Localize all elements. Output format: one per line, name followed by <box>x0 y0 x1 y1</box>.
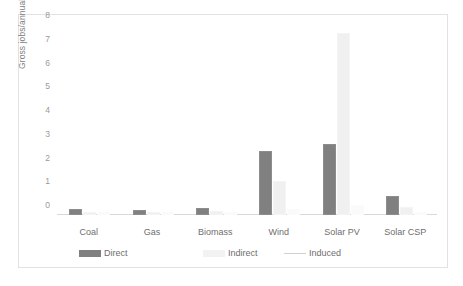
chart-figure: Gross jobs/annual GWh 012345678 CoalGasB… <box>18 14 448 268</box>
bar-indirect-coal[interactable] <box>83 212 96 215</box>
bar-direct-wind[interactable] <box>259 151 272 215</box>
y-tick-4: 4 <box>45 105 50 115</box>
bar-induced-gas[interactable] <box>161 212 174 215</box>
bar-induced-solar-csp[interactable] <box>414 212 427 215</box>
y-tick-8: 8 <box>45 10 50 20</box>
y-tick-6: 6 <box>45 58 50 68</box>
bar-direct-gas[interactable] <box>133 210 146 215</box>
y-tick-7: 7 <box>45 34 50 44</box>
bar-direct-solar-csp[interactable] <box>386 196 399 215</box>
bar-group-gas <box>133 25 172 215</box>
bar-indirect-gas[interactable] <box>147 212 160 215</box>
x-label-solar-pv: Solar PV <box>324 227 360 237</box>
y-tick-2: 2 <box>45 153 50 163</box>
legend-swatch-induced <box>284 250 306 257</box>
bar-group-solar-csp <box>386 25 425 215</box>
legend-swatch-direct <box>79 250 101 257</box>
legend-label-direct: Direct <box>104 248 128 258</box>
y-axis-label: Gross jobs/annual GWh <box>17 0 27 69</box>
legend-item-direct[interactable]: Direct <box>79 248 128 258</box>
x-label-coal: Coal <box>79 227 98 237</box>
y-tick-1: 1 <box>45 176 50 186</box>
bar-direct-coal[interactable] <box>69 209 82 215</box>
chart-legend: Direct Indirect Induced <box>79 248 399 262</box>
legend-label-indirect: Indirect <box>228 248 258 258</box>
legend-item-induced[interactable]: Induced <box>284 248 341 258</box>
legend-swatch-indirect <box>203 250 225 257</box>
y-tick-0: 0 <box>45 200 50 210</box>
bar-indirect-biomass[interactable] <box>210 211 223 215</box>
bar-indirect-wind[interactable] <box>273 181 286 215</box>
bar-group-biomass <box>196 25 235 215</box>
x-axis-line <box>57 214 437 215</box>
bar-induced-wind[interactable] <box>287 209 300 215</box>
bar-indirect-solar-pv[interactable] <box>337 33 350 216</box>
x-label-solar-csp: Solar CSP <box>384 227 426 237</box>
bar-induced-solar-pv[interactable] <box>351 205 364 215</box>
x-label-wind: Wind <box>268 227 289 237</box>
bar-group-coal <box>69 25 108 215</box>
y-tick-5: 5 <box>45 81 50 91</box>
x-label-biomass: Biomass <box>198 227 233 237</box>
bar-induced-biomass[interactable] <box>224 212 237 215</box>
bar-indirect-solar-csp[interactable] <box>400 207 413 215</box>
x-label-gas: Gas <box>144 227 161 237</box>
plot-area: 012345678 <box>57 25 437 215</box>
x-axis-tick-labels: CoalGasBiomassWindSolar PVSolar CSP <box>57 227 437 243</box>
bar-direct-solar-pv[interactable] <box>323 144 336 215</box>
legend-label-induced: Induced <box>309 248 341 258</box>
bar-group-wind <box>259 25 298 215</box>
y-tick-3: 3 <box>45 129 50 139</box>
bar-group-solar-pv <box>323 25 362 215</box>
legend-item-indirect[interactable]: Indirect <box>203 248 258 258</box>
bar-direct-biomass[interactable] <box>196 208 209 215</box>
bar-induced-coal[interactable] <box>97 212 110 215</box>
